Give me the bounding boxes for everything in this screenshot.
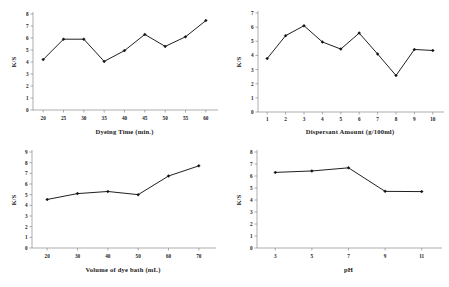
x-tick-label-dyeing-time-5: 45 — [142, 115, 148, 121]
x-tick-label-volume-of-dye-bath-1: 30 — [75, 253, 81, 259]
line-chart-dispersant-amount: 0123456712345678910Dispersant Amount (g/… — [224, 0, 449, 144]
y-tick-label-ph-8: 8 — [250, 149, 253, 155]
chart-panel-dispersant-amount: 0123456712345678910Dispersant Amount (g/… — [224, 0, 449, 144]
y-tick-label-dyeing-time-4: 4 — [26, 59, 29, 65]
x-tick-label-ph-1: 5 — [311, 253, 314, 259]
y-tick-label-dyeing-time-6: 6 — [26, 35, 29, 41]
x-tick-label-ph-4: 11 — [419, 253, 424, 259]
x-tick-label-dyeing-time-1: 25 — [61, 115, 67, 121]
data-point-ph-4 — [420, 190, 423, 193]
y-tick-label-ph-3: 3 — [250, 209, 253, 215]
y-axis-title-volume-of-dye-bath: K/S — [10, 194, 17, 205]
x-tick-label-volume-of-dye-bath-2: 40 — [105, 253, 111, 259]
series-line-volume-of-dye-bath — [47, 166, 199, 200]
x-tick-label-ph-3: 9 — [384, 253, 387, 259]
x-tick-label-dyeing-time-8: 60 — [203, 115, 209, 121]
series-line-ph — [275, 168, 421, 192]
x-tick-label-volume-of-dye-bath-3: 50 — [136, 253, 142, 259]
x-tick-label-dispersant-amount-2: 3 — [303, 116, 306, 122]
x-tick-label-volume-of-dye-bath-5: 70 — [196, 253, 202, 259]
y-tick-label-volume-of-dye-bath-7: 7 — [25, 170, 28, 176]
x-tick-label-dispersant-amount-5: 6 — [358, 116, 361, 122]
x-tick-label-ph-0: 3 — [274, 253, 277, 259]
y-tick-label-dispersant-amount-2: 2 — [251, 81, 254, 87]
data-point-ph-1 — [310, 169, 313, 172]
y-tick-label-dispersant-amount-0: 0 — [251, 109, 254, 115]
x-tick-label-dispersant-amount-6: 7 — [376, 116, 379, 122]
y-tick-label-dyeing-time-1: 1 — [26, 95, 29, 101]
x-tick-label-dispersant-amount-9: 10 — [430, 116, 436, 122]
data-point-volume-of-dye-bath-5 — [197, 164, 200, 167]
y-tick-label-volume-of-dye-bath-2: 2 — [25, 224, 28, 230]
x-axis-title-dyeing-time: Dyeing Time (min.) — [95, 128, 153, 136]
x-tick-label-dyeing-time-6: 50 — [163, 115, 169, 121]
y-tick-label-dispersant-amount-4: 4 — [251, 52, 254, 58]
chart-panel-volume-of-dye-bath: 0123456789203040506070Volume of dye bath… — [0, 144, 224, 287]
x-tick-label-dyeing-time-4: 40 — [122, 115, 128, 121]
y-tick-label-dyeing-time-8: 8 — [26, 11, 29, 17]
y-tick-label-volume-of-dye-bath-9: 9 — [25, 149, 28, 155]
y-tick-label-volume-of-dye-bath-4: 4 — [25, 202, 28, 208]
y-tick-label-dyeing-time-5: 5 — [26, 47, 29, 53]
y-tick-label-volume-of-dye-bath-8: 8 — [25, 160, 28, 166]
y-tick-label-ph-6: 6 — [250, 173, 253, 179]
y-tick-label-ph-4: 4 — [250, 197, 253, 203]
line-chart-dyeing-time: 012345678202530354045505560Dyeing Time (… — [0, 0, 224, 144]
y-axis-title-ph: K/S — [235, 194, 242, 205]
data-point-dispersant-amount-9 — [431, 49, 434, 52]
y-tick-label-ph-0: 0 — [250, 245, 253, 251]
y-tick-label-volume-of-dye-bath-6: 6 — [25, 181, 28, 187]
y-tick-label-dyeing-time-3: 3 — [26, 71, 29, 77]
x-tick-label-dispersant-amount-4: 5 — [340, 116, 343, 122]
chart-panel-ph: 012345678357911pHK/S — [224, 144, 449, 287]
y-tick-label-ph-7: 7 — [250, 161, 253, 167]
x-tick-label-ph-2: 7 — [347, 253, 350, 259]
series-line-dispersant-amount — [267, 26, 433, 76]
y-axis-title-dispersant-amount: K/S — [235, 56, 242, 67]
y-tick-label-volume-of-dye-bath-0: 0 — [25, 245, 28, 251]
x-tick-label-dispersant-amount-1: 2 — [284, 116, 287, 122]
x-axis-title-volume-of-dye-bath: Volume of dye bath (mL) — [85, 266, 160, 274]
figure-grid: 012345678202530354045505560Dyeing Time (… — [0, 0, 449, 287]
x-tick-label-dispersant-amount-3: 4 — [321, 116, 324, 122]
y-tick-label-ph-1: 1 — [250, 233, 253, 239]
x-axis-title-dispersant-amount: Dispersant Amount (g/100ml) — [306, 128, 395, 136]
y-tick-label-ph-2: 2 — [250, 221, 253, 227]
x-tick-label-dyeing-time-3: 35 — [102, 115, 108, 121]
x-tick-label-dyeing-time-7: 55 — [183, 115, 189, 121]
x-tick-label-dispersant-amount-0: 1 — [266, 116, 269, 122]
y-tick-label-dyeing-time-2: 2 — [26, 83, 29, 89]
y-tick-label-dyeing-time-0: 0 — [26, 107, 29, 113]
y-tick-label-volume-of-dye-bath-3: 3 — [25, 213, 28, 219]
y-axis-title-dyeing-time: K/S — [10, 56, 17, 67]
data-point-ph-0 — [274, 171, 277, 174]
x-tick-label-dyeing-time-0: 20 — [41, 115, 47, 121]
y-tick-label-volume-of-dye-bath-1: 1 — [25, 234, 28, 240]
y-tick-label-ph-5: 5 — [250, 185, 253, 191]
x-tick-label-volume-of-dye-bath-4: 60 — [166, 253, 172, 259]
chart-panel-dyeing-time: 012345678202530354045505560Dyeing Time (… — [0, 0, 224, 144]
y-tick-label-dispersant-amount-5: 5 — [251, 38, 254, 44]
series-line-dyeing-time — [43, 21, 206, 62]
x-tick-label-dyeing-time-2: 30 — [81, 115, 87, 121]
y-tick-label-dispersant-amount-7: 7 — [251, 10, 254, 16]
data-point-volume-of-dye-bath-0 — [46, 198, 49, 201]
y-tick-label-dyeing-time-7: 7 — [26, 23, 29, 29]
x-tick-label-dispersant-amount-7: 8 — [395, 116, 398, 122]
data-point-volume-of-dye-bath-2 — [106, 190, 109, 193]
y-tick-label-dispersant-amount-1: 1 — [251, 95, 254, 101]
data-point-volume-of-dye-bath-1 — [76, 192, 79, 195]
x-tick-label-dispersant-amount-8: 9 — [413, 116, 416, 122]
y-tick-label-volume-of-dye-bath-5: 5 — [25, 192, 28, 198]
x-axis-title-ph: pH — [344, 266, 354, 273]
y-tick-label-dispersant-amount-3: 3 — [251, 67, 254, 73]
line-chart-volume-of-dye-bath: 0123456789203040506070Volume of dye bath… — [0, 144, 224, 287]
y-tick-label-dispersant-amount-6: 6 — [251, 24, 254, 30]
line-chart-ph: 012345678357911pHK/S — [224, 144, 449, 287]
x-tick-label-volume-of-dye-bath-0: 20 — [45, 253, 51, 259]
